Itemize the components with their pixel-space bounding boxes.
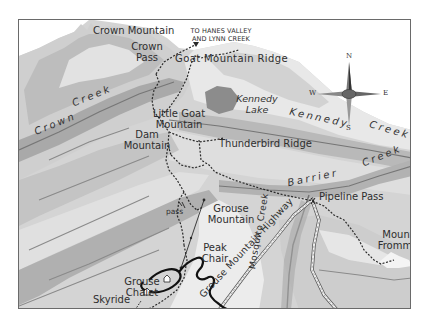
label-peak-chair: Peak Chair: [197, 242, 233, 264]
compass-n: N: [346, 52, 352, 60]
label-mount-fromme: Mount Fromme: [373, 229, 411, 251]
label-goat-mountain-ridge: Goat Mountain Ridge: [175, 53, 288, 64]
trail-map: Crown Mountain Crown Pass TO HANES VALLE…: [18, 19, 411, 309]
label-grouse-mountain: Grouse Mountain: [205, 203, 257, 225]
peak-chair-line2: Chair: [197, 253, 233, 264]
compass-s: S: [346, 124, 351, 132]
label-kennedy-lake: Kennedy Lake: [234, 93, 280, 115]
label-pipeline-pass: Pipeline Pass: [319, 191, 383, 202]
label-pass: pass: [166, 206, 183, 217]
kennedy-lake-line2: Lake: [234, 104, 280, 115]
label-dam-mountain: Dam Mountain: [119, 129, 175, 151]
direction-note-line2: AND LYNN CREEK: [189, 36, 253, 44]
compass-w: W: [309, 89, 316, 97]
mount-fromme-line2: Fromme: [373, 240, 411, 251]
label-little-goat-mountain: Little Goat Mountain: [151, 108, 207, 130]
label-crown-mountain: Crown Mountain: [93, 25, 174, 36]
dam-mountain-line2: Mountain: [119, 140, 175, 151]
compass-e: E: [383, 89, 388, 97]
dam-mountain-line1: Dam: [119, 129, 175, 140]
grouse-mountain-line2: Mountain: [205, 214, 257, 225]
label-crown-pass-line2: Pass: [127, 52, 167, 63]
label-skyride: Skyride: [93, 294, 130, 305]
label-crown-pass: Crown Pass: [127, 41, 167, 63]
little-goat-line1: Little Goat: [151, 108, 207, 119]
grouse-chalet-line1: Grouse: [120, 276, 164, 287]
mount-fromme-line1: Mount: [373, 229, 411, 240]
label-direction-note: TO HANES VALLEY AND LYNN CREEK: [189, 28, 253, 43]
label-crown-pass-line1: Crown: [127, 41, 167, 52]
kennedy-lake-line1: Kennedy: [234, 93, 280, 104]
grouse-mountain-line1: Grouse: [205, 203, 257, 214]
peak-chair-line1: Peak: [197, 242, 233, 253]
label-thunderbird-ridge: Thunderbird Ridge: [219, 138, 312, 149]
